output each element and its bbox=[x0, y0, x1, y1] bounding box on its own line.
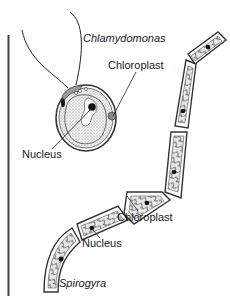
label-chloroplast-spirogyra: Chloroplast bbox=[117, 211, 173, 223]
label-nucleus-chlamy: Nucleus bbox=[22, 148, 62, 160]
spirogyra-cell bbox=[188, 32, 226, 64]
nucleus bbox=[88, 103, 96, 111]
eyespot bbox=[61, 99, 65, 107]
flagellum-right bbox=[70, 12, 81, 85]
spirogyra-cell bbox=[175, 60, 196, 128]
spirogyra-cell bbox=[165, 132, 187, 198]
spirogyra-filament bbox=[44, 32, 226, 292]
label-chlamydomonas: Chlamydomonas bbox=[83, 32, 166, 44]
label-nucleus-spirogyra: Nucleus bbox=[82, 237, 122, 249]
leader-chloroplast-chlamy bbox=[113, 72, 136, 116]
label-spirogyra: Spirogyra bbox=[59, 277, 106, 289]
algae-diagram: Chlamydomonas Chloroplast Nucleus bbox=[0, 0, 230, 303]
label-chloroplast-chlamy: Chloroplast bbox=[108, 59, 164, 71]
flagellum-left bbox=[22, 30, 68, 88]
